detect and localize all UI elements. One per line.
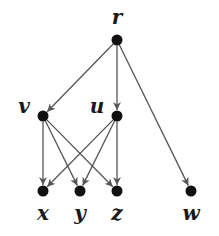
node-label-x: x bbox=[36, 201, 50, 225]
edge-r-to-w bbox=[119, 45, 188, 186]
node-label-y: y bbox=[73, 201, 87, 225]
directed-graph: rvuxyzw bbox=[0, 0, 219, 236]
edge-u-to-y bbox=[83, 121, 115, 186]
node-w bbox=[186, 186, 197, 197]
node-label-v: v bbox=[18, 94, 30, 118]
node-u bbox=[112, 111, 123, 122]
node-label-w: w bbox=[182, 201, 200, 225]
node-label-r: r bbox=[112, 5, 124, 29]
node-label-z: z bbox=[110, 201, 123, 225]
edge-v-to-y bbox=[45, 121, 77, 186]
node-v bbox=[38, 111, 49, 122]
node-label-u: u bbox=[90, 94, 105, 118]
node-y bbox=[75, 186, 86, 197]
node-r bbox=[112, 35, 123, 46]
node-x bbox=[38, 186, 49, 197]
node-z bbox=[112, 186, 123, 197]
